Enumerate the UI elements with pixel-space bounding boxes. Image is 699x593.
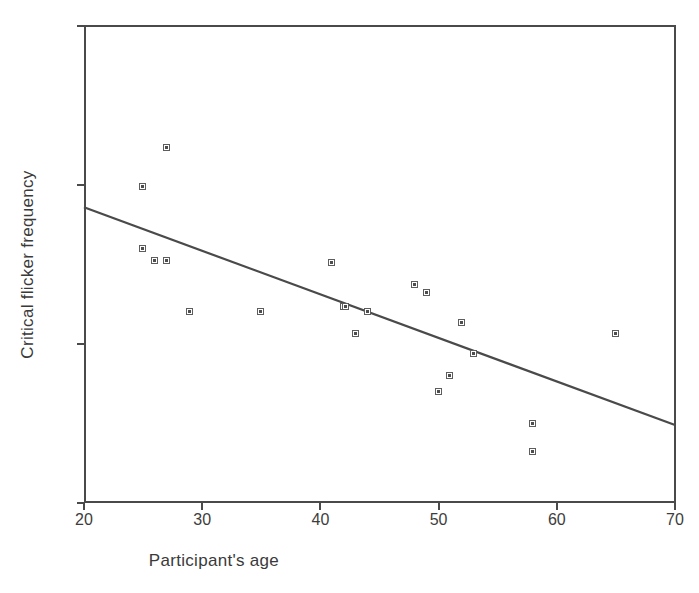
x-axis-tick-label: 70 <box>653 512 697 528</box>
x-axis-tick-label: 20 <box>62 512 106 528</box>
x-axis-tick <box>83 503 85 510</box>
x-axis-tick-label: 60 <box>535 512 579 528</box>
x-axis-tick-label: 30 <box>180 512 224 528</box>
data-point-marker <box>458 319 465 326</box>
x-axis-tick <box>438 503 440 510</box>
data-point-marker <box>257 308 264 315</box>
x-axis-tick-label: 50 <box>417 512 461 528</box>
data-point-marker <box>352 330 359 337</box>
x-axis-tick <box>556 503 558 510</box>
data-point-marker <box>139 183 146 190</box>
data-point-marker <box>139 245 146 252</box>
data-point-marker <box>328 259 335 266</box>
x-axis-title: Participant's age <box>84 550 344 572</box>
x-axis-tick <box>201 503 203 510</box>
data-point-marker <box>529 448 536 455</box>
x-axis-tick <box>674 503 676 510</box>
y-axis-tick <box>77 184 84 186</box>
x-axis-tick-label: 40 <box>298 512 342 528</box>
data-point-marker <box>411 281 418 288</box>
data-point-marker <box>342 303 349 310</box>
data-point-marker <box>435 388 442 395</box>
data-point-marker <box>163 144 170 151</box>
data-point-marker <box>446 372 453 379</box>
data-point-marker <box>612 330 619 337</box>
scatter-plot-figure: 20304050203040506070 Critical flicker fr… <box>0 0 699 593</box>
data-point-marker <box>364 308 371 315</box>
y-axis-tick <box>77 25 84 27</box>
data-point-marker <box>470 350 477 357</box>
plot-area <box>84 26 676 503</box>
y-axis-title: Critical flicker frequency <box>14 26 42 503</box>
data-point-marker <box>163 257 170 264</box>
data-point-marker <box>186 308 193 315</box>
data-point-marker <box>151 257 158 264</box>
data-point-marker <box>423 289 430 296</box>
data-point-marker <box>529 420 536 427</box>
y-axis-tick <box>77 343 84 345</box>
x-axis-tick <box>319 503 321 510</box>
